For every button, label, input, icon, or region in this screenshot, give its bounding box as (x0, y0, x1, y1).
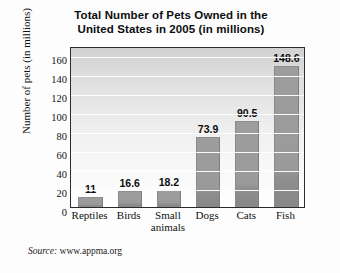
bar-group[interactable]: 148.6 (274, 66, 298, 207)
bar-value-label: 90.5 (237, 107, 257, 119)
chart-title-line-1: Total Number of Pets Owned in the (40, 8, 302, 22)
bar[interactable]: 73.9 (196, 137, 220, 207)
x-tick-label: Fish (266, 210, 305, 222)
bar-value-label: 73.9 (198, 123, 218, 135)
bar[interactable]: 11 (78, 197, 102, 207)
x-tick-label-line: Cats (227, 210, 266, 222)
y-tick-label: 140 (40, 75, 67, 85)
source-note: Source: www.appma.org (28, 246, 122, 256)
bar-value-label: 18.2 (159, 176, 179, 188)
y-axis-title: Number of pets (in millions) (20, 0, 36, 146)
y-tick-label: 100 (40, 113, 67, 123)
bar-group[interactable]: 90.5 (235, 121, 259, 207)
bar-group[interactable]: 16.6 (118, 191, 142, 207)
y-tick-label: 40 (40, 170, 67, 180)
x-tick-label-line: Dogs (188, 210, 227, 222)
x-tick-label-line: Birds (109, 210, 148, 222)
chart-title: Total Number of Pets Owned in the United… (40, 8, 302, 36)
bar-value-label: 148.6 (273, 52, 299, 64)
x-tick-label-line: Reptiles (70, 210, 109, 222)
source-value: www.appma.org (60, 246, 123, 256)
y-tick-label: 20 (40, 189, 67, 199)
bar[interactable]: 16.6 (118, 191, 142, 207)
bar-group[interactable]: 11 (78, 197, 102, 207)
y-tick-label: 0 (40, 208, 67, 218)
source-label: Source: (28, 246, 57, 256)
x-tick-label-line: animals (148, 222, 187, 234)
x-tick-label: Cats (227, 210, 266, 222)
bar-value-label: 11 (85, 183, 96, 195)
x-tick-label: Reptiles (70, 210, 109, 222)
plot-area: 1116.618.273.990.5148.6 (70, 47, 305, 208)
y-tick-label: 160 (40, 56, 67, 66)
bar-group[interactable]: 73.9 (196, 137, 220, 207)
x-tick-label-line: Fish (266, 210, 305, 222)
y-tick-label: 80 (40, 132, 67, 142)
x-tick-label: Dogs (188, 210, 227, 222)
chart-figure: Total Number of Pets Owned in the United… (0, 0, 340, 273)
bar-group[interactable]: 18.2 (157, 190, 181, 207)
bar[interactable]: 90.5 (235, 121, 259, 207)
x-tick-label-line: Small (148, 210, 187, 222)
x-axis-tick-labels: ReptilesBirdsSmallanimalsDogsCatsFish (70, 210, 305, 240)
bar[interactable]: 18.2 (157, 190, 181, 207)
x-tick-label: Smallanimals (148, 210, 187, 233)
bar-value-label: 16.6 (120, 177, 140, 189)
y-axis-tick-labels: 020406080100120140160 (40, 52, 67, 208)
y-tick-label: 120 (40, 94, 67, 104)
y-tick-label: 60 (40, 151, 67, 161)
bar-series: 1116.618.273.990.5148.6 (71, 48, 304, 207)
x-tick-label: Birds (109, 210, 148, 222)
bar[interactable]: 148.6 (274, 66, 298, 207)
chart-title-line-2: United States in 2005 (in millions) (40, 22, 302, 36)
